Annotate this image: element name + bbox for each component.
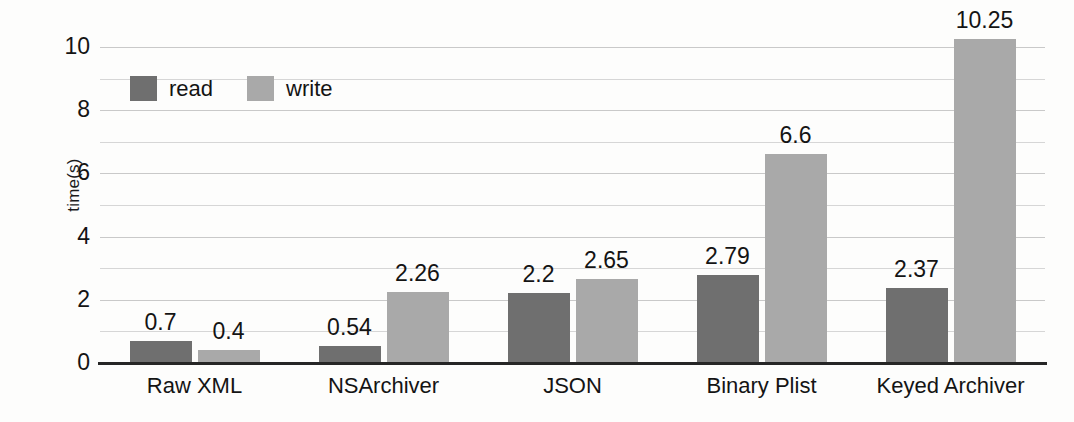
bar-read — [886, 288, 948, 363]
y-tick-label: 10 — [46, 35, 90, 58]
bar-write — [954, 39, 1016, 363]
y-tick-label: 6 — [46, 161, 90, 184]
legend-label: write — [286, 78, 332, 100]
legend: readwrite — [130, 76, 333, 101]
bar-chart: time(s) 0246810 Raw XMLNSArchiverJSONBin… — [0, 0, 1074, 422]
gridline — [100, 237, 1045, 238]
bar-value-label: 2.65 — [576, 249, 638, 272]
y-tick-label: 4 — [46, 225, 90, 248]
category-label: Raw XML — [85, 374, 305, 398]
bar-write — [387, 292, 449, 363]
gridline — [100, 173, 1045, 174]
y-tick-label: 8 — [46, 98, 90, 121]
category-label: NSArchiver — [274, 374, 494, 398]
legend-item-write[interactable]: write — [247, 76, 332, 101]
bar-read — [697, 275, 759, 363]
category-label: Binary Plist — [652, 374, 872, 398]
y-tick-label: 0 — [46, 351, 90, 374]
bar-write — [576, 279, 638, 363]
bar-value-label: 6.6 — [765, 124, 827, 147]
bar-value-label: 0.4 — [198, 320, 260, 343]
category-label: Keyed Archiver — [841, 374, 1061, 398]
bar-value-label: 10.25 — [954, 9, 1016, 32]
bar-read — [319, 346, 381, 363]
legend-swatch-icon — [130, 76, 157, 101]
legend-label: read — [169, 78, 213, 100]
legend-item-read[interactable]: read — [130, 76, 213, 101]
legend-swatch-icon — [247, 76, 274, 101]
gridline — [100, 142, 1045, 143]
category-label: JSON — [463, 374, 683, 398]
bar-value-label: 2.26 — [387, 262, 449, 285]
bar-value-label: 0.7 — [130, 311, 192, 334]
y-tick-label: 2 — [46, 288, 90, 311]
bar-value-label: 2.37 — [886, 258, 948, 281]
bar-value-label: 2.2 — [508, 263, 570, 286]
x-axis-line — [98, 362, 1047, 365]
gridline — [100, 110, 1045, 111]
bar-value-label: 2.79 — [697, 245, 759, 268]
gridline — [100, 47, 1045, 48]
gridline — [100, 205, 1045, 206]
y-axis-tick-labels: 0246810 — [40, 0, 90, 422]
bar-read — [508, 293, 570, 363]
bar-value-label: 0.54 — [319, 316, 381, 339]
bar-write — [765, 154, 827, 363]
bar-read — [130, 341, 192, 363]
